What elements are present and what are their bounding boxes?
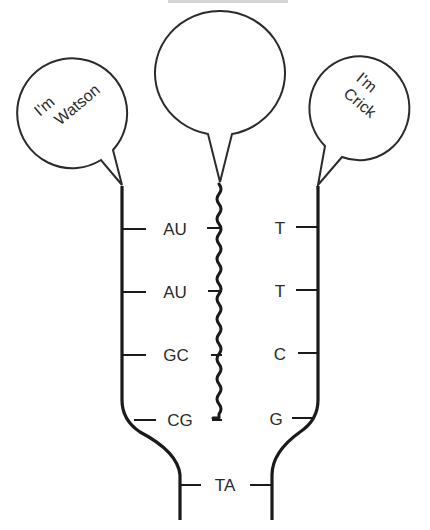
watson-speech-bubble: I'm Watson (17, 58, 127, 185)
crick-base-label-4: G (269, 410, 282, 429)
crick-base-label-2: T (275, 282, 285, 301)
crick-rung-ticks (292, 227, 318, 418)
rna-dna-pair-label-3: GC (163, 346, 189, 365)
dna-rna-diagram: I'm Watson I'm Crick (0, 0, 430, 530)
rna-dna-pair-label-4: CG (167, 411, 193, 430)
crick-base-label-1: T (275, 219, 285, 238)
rna-dna-pair-label-1: AU (163, 220, 187, 239)
crick-speech-bubble: I'm Crick (309, 56, 409, 185)
crick-base-label-3: C (274, 345, 286, 364)
cropped-caption-fragment (168, 0, 288, 3)
dna-pair-label-ta: TA (215, 476, 236, 495)
rna-dna-pair-label-2: AU (163, 283, 187, 302)
rna-wavy-strand (213, 184, 221, 418)
rna-speech-bubble (155, 11, 285, 182)
watson-rung-ticks (122, 229, 156, 420)
